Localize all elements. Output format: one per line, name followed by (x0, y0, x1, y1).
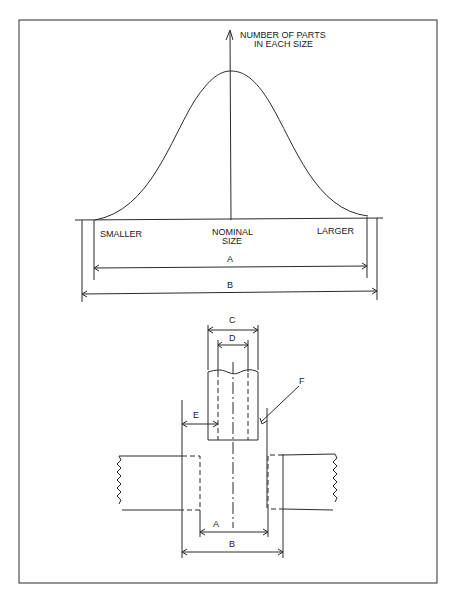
dimension-a-label: A (227, 254, 233, 264)
right-block-edges (283, 454, 335, 510)
dimension-f-leader (261, 386, 299, 422)
left-block-edges (119, 456, 182, 510)
tolerance-diagram: NUMBER OF PARTS IN EACH SIZE SMALLER NOM… (0, 0, 455, 598)
dimension-hole-a-label: A (213, 519, 219, 529)
dimension-f-label: F (299, 376, 305, 386)
larger-label: LARGER (317, 226, 355, 236)
y-axis-label-line2: IN EACH SIZE (254, 39, 313, 49)
dimension-e-label: E (193, 410, 199, 420)
dimension-b-line (82, 291, 377, 294)
nominal-label-line2: SIZE (222, 236, 242, 246)
left-block-hidden (182, 456, 200, 510)
dimension-d-label: D (229, 333, 236, 343)
smaller-label: SMALLER (100, 229, 143, 239)
left-block-break-icon (117, 456, 121, 504)
dimension-hole-b-label: B (229, 539, 235, 549)
fit-diagram: C D E F A B (117, 315, 337, 558)
normal-curve (95, 71, 368, 220)
y-axis-arrow-icon (226, 30, 233, 40)
y-axis (230, 32, 231, 220)
dimension-c-label: C (229, 315, 236, 325)
right-block-break-icon (333, 454, 337, 502)
distribution-diagram: NUMBER OF PARTS IN EACH SIZE SMALLER NOM… (75, 30, 383, 302)
dimension-a-line (94, 266, 367, 268)
right-block-hidden (268, 455, 283, 509)
dimension-f-arrow-icon (260, 418, 267, 424)
dimension-b-label: B (227, 280, 233, 290)
x-axis (75, 218, 383, 220)
